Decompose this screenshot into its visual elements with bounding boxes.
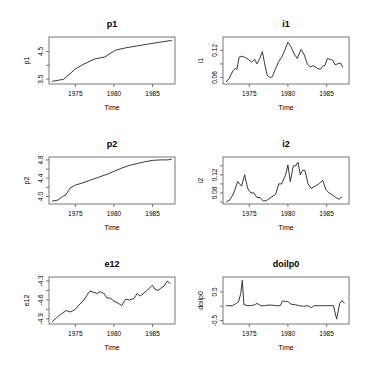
y-tick-label: -0.5 <box>211 315 218 327</box>
panel-e12: e12197519801985Time-4.9-4.6-4.3e12 <box>23 259 175 351</box>
series-line <box>226 42 343 82</box>
series-line <box>226 162 342 202</box>
panel-title: doilp0 <box>273 259 300 269</box>
x-axis-label: Time <box>104 344 119 351</box>
panel-title: p1 <box>107 19 118 29</box>
y-tick-label: 0.12 <box>211 168 218 181</box>
y-axis-label: i2 <box>197 178 204 184</box>
x-tick-label: 1975 <box>242 210 257 217</box>
x-tick-label: 1975 <box>68 330 83 337</box>
y-tick-label: 0.5 <box>211 287 218 296</box>
y-tick-label: 0.12 <box>211 44 218 57</box>
x-axis-label: Time <box>104 224 119 231</box>
y-tick-label: 4.0 <box>37 192 44 201</box>
plot-frame <box>49 157 175 204</box>
y-axis-label: p1 <box>23 57 31 65</box>
series-line <box>52 40 172 81</box>
series-line <box>52 281 170 322</box>
panel-i2: i2197519801985Time0.080.12i2 <box>197 139 349 231</box>
plot-frame <box>223 37 349 84</box>
x-tick-label: 1985 <box>145 210 160 217</box>
x-tick-label: 1985 <box>319 90 334 97</box>
series-line <box>52 159 172 201</box>
x-tick-label: 1980 <box>107 330 122 337</box>
x-axis-label: Time <box>278 344 293 351</box>
panel-doilp0: doilp0197519801985Time-0.50.5doilp0 <box>197 259 349 351</box>
y-axis-label: doilp0 <box>197 291 205 310</box>
x-tick-label: 1985 <box>319 330 334 337</box>
y-tick-label: -4.3 <box>37 275 44 287</box>
plot-frame <box>49 277 175 324</box>
panel-title: e12 <box>104 259 119 269</box>
y-tick-label: 3.5 <box>37 74 44 83</box>
plot-frame <box>223 157 349 204</box>
x-tick-label: 1980 <box>281 330 296 337</box>
series-line <box>226 280 344 319</box>
x-axis-label: Time <box>104 104 119 111</box>
x-tick-label: 1980 <box>107 210 122 217</box>
x-tick-label: 1985 <box>145 330 160 337</box>
y-tick-label: -4.9 <box>37 313 44 325</box>
x-axis-label: Time <box>278 104 293 111</box>
x-tick-label: 1975 <box>68 90 83 97</box>
x-axis-label: Time <box>278 224 293 231</box>
y-tick-label: 0.08 <box>211 186 218 199</box>
y-tick-label: 4.8 <box>37 155 44 164</box>
y-axis-label: e12 <box>23 295 30 307</box>
panel-p1: p1197519801985Time3.54.5p1 <box>23 19 175 111</box>
time-series-grid: p1197519801985Time3.54.5p1i1197519801985… <box>0 0 372 373</box>
panel-title: i1 <box>282 19 290 29</box>
y-axis-label: i1 <box>197 58 204 64</box>
x-tick-label: 1980 <box>281 90 296 97</box>
x-tick-label: 1975 <box>242 330 257 337</box>
y-tick-label: -4.6 <box>37 294 44 306</box>
y-tick-label: 4.5 <box>37 47 44 56</box>
x-tick-label: 1980 <box>281 210 296 217</box>
panel-p2: p2197519801985Time4.04.44.8p2 <box>23 139 175 231</box>
y-tick-label: 0.06 <box>211 71 218 84</box>
x-tick-label: 1985 <box>145 90 160 97</box>
x-tick-label: 1980 <box>107 90 122 97</box>
plot-frame <box>49 37 175 84</box>
panel-title: i2 <box>282 139 290 149</box>
y-tick-label: 4.4 <box>37 173 44 182</box>
y-axis-label: p2 <box>23 177 31 185</box>
panel-title: p2 <box>107 139 118 149</box>
panel-i1: i1197519801985Time0.060.12i1 <box>197 19 349 111</box>
x-tick-label: 1975 <box>68 210 83 217</box>
x-tick-label: 1975 <box>242 90 257 97</box>
x-tick-label: 1985 <box>319 210 334 217</box>
